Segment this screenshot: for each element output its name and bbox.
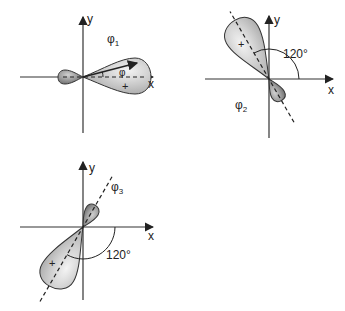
angle-symbol: φ — [119, 67, 126, 78]
y-axis-label: y — [274, 13, 280, 27]
angle-label-120: 120° — [283, 47, 308, 61]
orbital-diagram-phi2 — [205, 3, 333, 138]
orbital-axis-dashed — [40, 177, 112, 302]
angle-label-120: 120° — [106, 248, 131, 262]
large-lobe — [34, 219, 99, 296]
orbital-label-phi3: φ3 — [111, 180, 124, 196]
sign-plus: + — [238, 38, 244, 50]
hybrid-orbitals-figure: y x φ1 φ + y x 120° φ2 + y x 120° φ3 + — [0, 0, 345, 311]
x-axis-label: x — [148, 77, 154, 91]
y-axis-label: y — [87, 12, 93, 26]
orbital-label-phi2: φ2 — [235, 98, 248, 114]
sign-plus: + — [122, 80, 128, 92]
orbital-diagram-phi1 — [20, 17, 153, 133]
x-axis-label: x — [328, 83, 334, 97]
x-axis-label: x — [148, 229, 154, 243]
large-lobe — [83, 58, 151, 94]
orbital-diagram-phi3 — [20, 162, 153, 311]
sign-plus: + — [49, 257, 55, 269]
orbital-label-phi1: φ1 — [107, 32, 120, 48]
y-axis-label: y — [89, 161, 95, 175]
